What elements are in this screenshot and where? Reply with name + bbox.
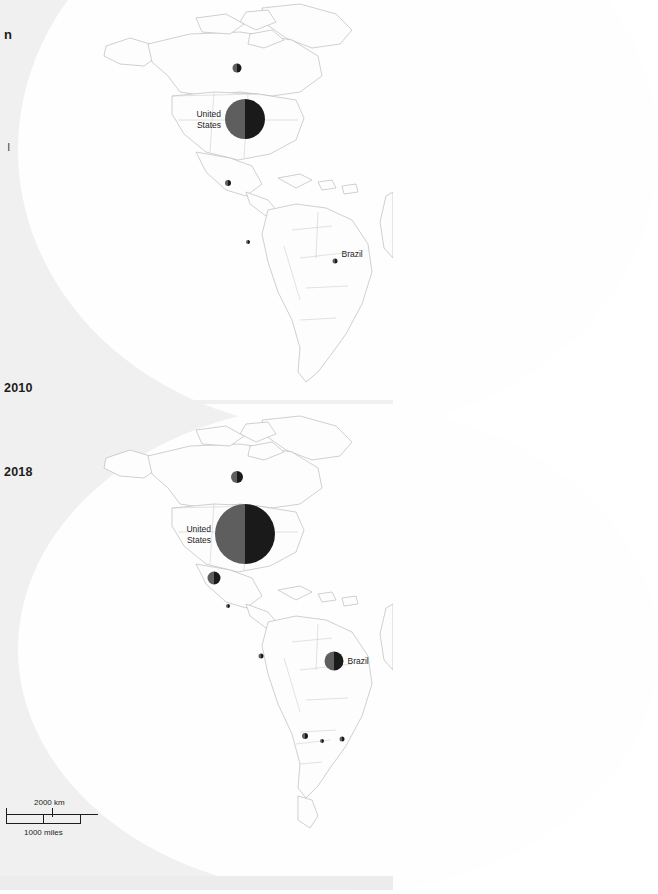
figure-title-fragment: n	[0, 26, 12, 43]
marker-label-united-states: United States	[186, 524, 211, 545]
marker-argentina	[319, 730, 325, 736]
scale-tick-mi-start	[6, 815, 7, 824]
year-label-2018: 2018	[4, 465, 33, 479]
marker-chile	[301, 726, 309, 734]
marker-canada	[232, 60, 243, 71]
marker-label-brazil: Brazil	[348, 656, 369, 667]
marker-label-united-states: United States	[196, 109, 221, 130]
marker-united-states	[224, 98, 266, 140]
marker-uruguay	[339, 729, 346, 736]
marker-mexico	[224, 173, 232, 181]
scale-tick-mi-end	[80, 815, 81, 824]
marker-colombia	[245, 231, 251, 237]
scale-tick-km-mid	[52, 808, 53, 817]
figure-note-fragment: l	[0, 140, 10, 155]
marker-united-states	[214, 503, 276, 565]
marker-brazil	[332, 251, 339, 258]
scale-tick-mi-mid	[43, 815, 44, 824]
marker-canada	[230, 470, 244, 484]
world-map-2010	[0, 0, 393, 400]
marker-guatemala	[225, 595, 231, 601]
year-label-2010: 2010	[4, 381, 33, 395]
marker-brazil	[324, 651, 345, 672]
scale-bar: 2000 km 1000 miles	[4, 798, 100, 844]
marker-mexico	[207, 571, 222, 586]
bottom-strip	[0, 876, 393, 890]
marker-colombia	[258, 646, 265, 653]
scale-miles-label: 1000 miles	[24, 828, 63, 837]
marker-label-brazil: Brazil	[342, 249, 363, 260]
scale-km-label: 2000 km	[34, 798, 65, 807]
map-panel-2010: n l	[0, 0, 393, 400]
